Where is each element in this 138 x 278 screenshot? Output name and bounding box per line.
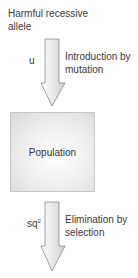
rate-exponent: 2 (38, 218, 41, 224)
population-label: Population (29, 147, 76, 158)
mutation-desc-line1: Introduction by (65, 51, 131, 63)
mutation-rate-label: u (29, 55, 35, 67)
source-label-line1: Harmful recessive (8, 8, 88, 20)
population-box: Population (10, 112, 95, 192)
rate-base: sq (27, 218, 38, 229)
mutation-desc-line2: mutation (65, 64, 103, 76)
mutation-arrow-icon (40, 38, 66, 108)
selection-rate-label: sq2 (27, 218, 41, 230)
selection-arrow-icon (40, 201, 66, 273)
selection-desc-line1: Elimination by (65, 214, 127, 226)
source-label-line2: allele (8, 21, 31, 33)
selection-desc-line2: selection (65, 227, 104, 239)
